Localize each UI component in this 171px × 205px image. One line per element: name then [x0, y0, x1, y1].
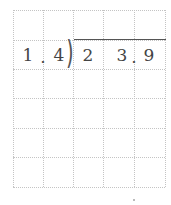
- grid-line: [13, 98, 165, 99]
- division-bar: [74, 39, 166, 40]
- stray-mark: [133, 199, 135, 201]
- grid-line: [13, 187, 165, 188]
- grid-line: [13, 69, 165, 70]
- grid-paper: [13, 10, 165, 187]
- grid-line: [165, 10, 166, 187]
- grid-line: [13, 40, 165, 41]
- grid-line: [13, 10, 165, 11]
- dividend-digit: 2: [78, 45, 98, 65]
- grid-line: [13, 157, 165, 158]
- dividend-decimal-point: .: [129, 47, 139, 67]
- grid-line: [13, 128, 165, 129]
- dividend-digit: 9: [139, 45, 159, 65]
